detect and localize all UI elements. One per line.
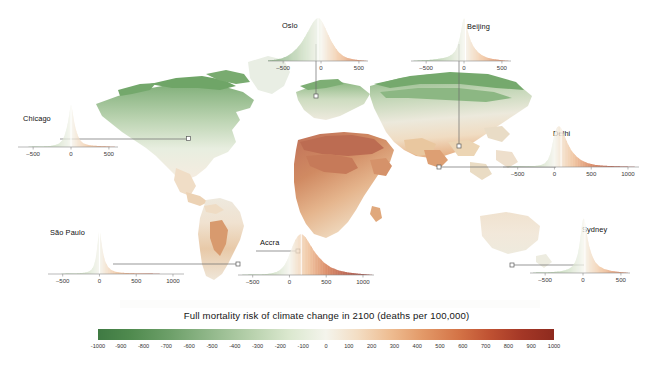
marker-sydney: [510, 263, 514, 267]
x-tick-label: 0: [69, 150, 73, 157]
inset-sydney: Sydney –5000500: [524, 214, 636, 286]
x-tick-label: 500: [321, 278, 332, 285]
dist-chart-accra: –50005001000: [232, 230, 380, 288]
colorbar-tick: 600: [458, 343, 467, 349]
inset-saopaulo: São Paulo –50005001000: [42, 225, 190, 287]
marker-beijing: [457, 144, 461, 148]
x-tick-label: 1000: [166, 277, 180, 284]
inset-oslo: Oslo –5000500: [262, 14, 374, 74]
colorbar-tick: -900: [115, 343, 126, 349]
x-tick-label: –500: [26, 150, 40, 157]
density-fill: [268, 18, 366, 61]
x-tick-label: 0: [98, 277, 102, 284]
colorbar-tick: 200: [367, 343, 376, 349]
colorbar: [98, 329, 554, 340]
dist-chart-sydney: –5000500: [524, 214, 636, 286]
x-tick-label: 0: [288, 278, 292, 285]
density-fill: [533, 218, 628, 273]
colorbar-tick: -200: [275, 343, 286, 349]
marker-delhi: [437, 165, 441, 169]
x-tick-label: –500: [246, 278, 260, 285]
x-tick-label: 0: [581, 276, 585, 283]
inset-beijing: Beijing –5000500: [405, 14, 517, 74]
x-tick-label: –500: [276, 64, 290, 71]
colorbar-tick: -500: [206, 343, 217, 349]
density-fill: [507, 126, 634, 167]
inset-chicago: Chicago –5000500: [12, 100, 124, 160]
x-tick-label: –500: [538, 276, 552, 283]
colorbar-tick: 800: [504, 343, 513, 349]
colorbar-tick: 500: [435, 343, 444, 349]
colorbar-tick: 700: [481, 343, 490, 349]
colorbar-tick: -400: [229, 343, 240, 349]
dist-chart-delhi: –50005001000: [497, 122, 645, 180]
colorbar-tick: 100: [344, 343, 353, 349]
colorbar-tick: 300: [390, 343, 399, 349]
inset-delhi: Delhi –50005001000: [497, 122, 645, 180]
density-fill: [414, 18, 509, 61]
density-fill: [242, 234, 372, 275]
x-tick-label: 0: [319, 64, 323, 71]
climate-mortality-figure: Chicago –5000500 Oslo –5000500 Beijing –…: [0, 0, 653, 371]
marker-chicago: [187, 137, 191, 141]
colorbar-tick: 900: [527, 343, 536, 349]
x-tick-label: 500: [616, 276, 627, 283]
dist-chart-beijing: –5000500: [405, 14, 517, 74]
colorbar-tick: -800: [138, 343, 149, 349]
x-tick-label: 1000: [621, 170, 635, 177]
legend-title: Full mortality risk of climate change in…: [0, 310, 653, 321]
x-tick-label: 0: [553, 170, 557, 177]
x-tick-label: 500: [586, 170, 597, 177]
x-tick-label: 0: [462, 64, 466, 71]
density-fill: [29, 105, 115, 147]
colorbar-tick: 400: [413, 343, 422, 349]
x-tick-label: 500: [497, 64, 508, 71]
dist-chart-oslo: –5000500: [262, 14, 374, 74]
colorbar-tick: -300: [252, 343, 263, 349]
x-tick-label: 500: [131, 277, 142, 284]
density-fill: [62, 229, 160, 274]
colorbar-tick: -600: [184, 343, 195, 349]
x-tick-label: 500: [104, 150, 115, 157]
colorbar-tick: -100: [298, 343, 309, 349]
dist-chart-saopaulo: –50005001000: [42, 225, 190, 287]
colorbar-tick-labels: -1000-900-800-700-600-500-400-300-200-10…: [98, 343, 554, 355]
x-tick-label: 1000: [356, 278, 370, 285]
legend: Full mortality risk of climate change in…: [0, 310, 653, 371]
colorbar-tick: 1000: [548, 343, 560, 349]
x-tick-label: –500: [419, 64, 433, 71]
colorbar-tick: -700: [161, 343, 172, 349]
marker-oslo: [314, 94, 318, 98]
inset-accra: Accra –50005001000: [232, 230, 380, 288]
x-tick-label: 500: [354, 64, 365, 71]
dist-chart-chicago: –5000500: [12, 100, 124, 160]
colorbar-tick: -1000: [91, 343, 105, 349]
x-tick-label: –500: [56, 277, 70, 284]
colorbar-tick: 0: [324, 343, 327, 349]
x-tick-label: –500: [511, 170, 525, 177]
